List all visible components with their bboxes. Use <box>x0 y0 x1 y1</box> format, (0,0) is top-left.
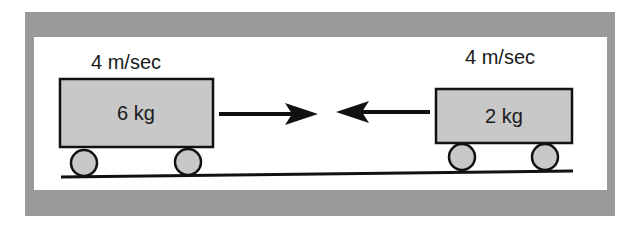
left-cart-mass-label: 6 kg <box>117 102 155 124</box>
right-cart-velocity-label: 4 m/sec <box>465 46 535 68</box>
left-cart-velocity-label: 4 m/sec <box>91 51 161 73</box>
arrow-right-icon <box>219 103 318 125</box>
ground-line <box>61 171 573 177</box>
right-cart-wheel-rear-icon <box>532 144 558 170</box>
left-cart: 6 kg 4 m/sec <box>60 51 213 176</box>
right-cart: 2 kg 4 m/sec <box>436 46 572 170</box>
collision-diagram: 6 kg 4 m/sec 2 kg 4 m/sec <box>0 0 641 228</box>
right-cart-mass-label: 2 kg <box>485 105 523 127</box>
left-cart-wheel-rear-icon <box>175 149 201 175</box>
left-cart-wheel-front-icon <box>71 150 97 176</box>
arrow-left-icon <box>336 101 430 123</box>
right-cart-wheel-front-icon <box>449 144 475 170</box>
